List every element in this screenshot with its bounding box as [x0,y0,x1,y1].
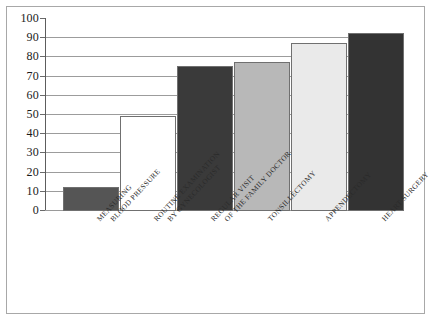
chart-figure: 1009080706050403020100 MEASURINGBLOOD PR… [0,0,432,321]
y-axis-tick-label: 80 [27,49,39,64]
y-axis-tick-label: 60 [27,87,39,102]
bar-series [46,18,404,211]
y-axis-tick-label: 70 [27,68,39,83]
y-axis-tick-label: 90 [27,30,39,45]
y-axis-tick-label: 20 [27,164,39,179]
y-axis-tick-label: 30 [27,145,39,160]
y-axis-tick-label: 100 [20,11,39,26]
x-axis-category-labels: MEASURINGBLOOD PRESSUREROUTINE EXAMINATI… [45,211,404,319]
y-axis-tick-labels: 1009080706050403020100 [0,0,39,321]
y-axis-tick-label: 40 [27,126,39,141]
y-axis-tick-label: 50 [27,107,39,122]
y-axis-tick-label: 0 [33,203,39,218]
y-axis-tick-label: 10 [27,183,39,198]
